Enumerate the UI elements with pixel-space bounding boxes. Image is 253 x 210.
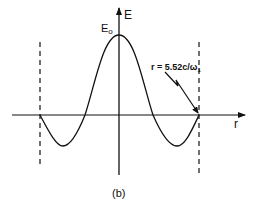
peak-label: Eo [101, 22, 113, 36]
x-axis-label: r [234, 117, 238, 131]
field-profile-diagram: E Eo r = 5.52c/ω1 r (b) [0, 0, 253, 210]
annotation-pointer-arrow [165, 72, 198, 113]
y-axis-label: E [124, 8, 132, 22]
figure-caption: (b) [112, 187, 125, 199]
boundary-annotation: r = 5.52c/ω1 [151, 62, 201, 73]
